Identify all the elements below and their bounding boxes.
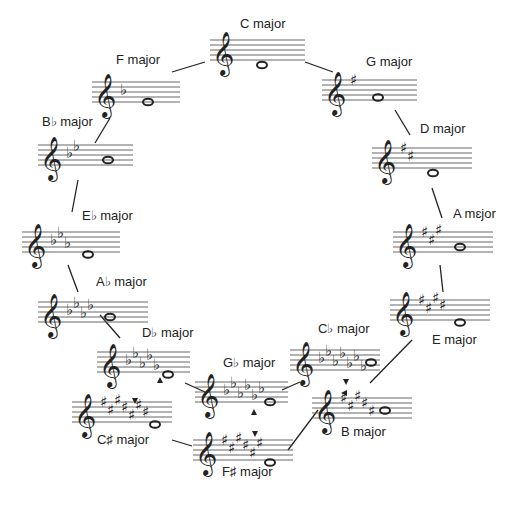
flat-icon: ♭ [64, 234, 71, 252]
connector-line [68, 265, 78, 292]
flat-icon: ♭ [87, 296, 94, 314]
connector-line [95, 118, 110, 143]
connector-line [432, 188, 442, 218]
treble-clef-icon: 𝄞 [195, 431, 217, 477]
connector-line [100, 315, 120, 338]
treble-clef-icon: 𝄞 [94, 73, 116, 119]
staff-a-flat-major: 𝄞♭♭♭♭ [38, 293, 148, 339]
treble-clef-icon: 𝄞 [99, 343, 121, 389]
key-label-g-flat-major: G♭ major [223, 355, 275, 370]
connector-line [395, 110, 410, 135]
flat-icon: ♭ [120, 81, 127, 99]
key-label-d-major: D major [420, 121, 466, 136]
key-label-e-flat-major: E♭ major [82, 208, 133, 223]
flat-icon: ♭ [258, 379, 265, 397]
key-label-c-sharp-major: C♯ major [97, 432, 149, 447]
whole-note-icon [373, 94, 383, 101]
circle-of-fifths-diagram: 𝄞𝄞♯𝄞♯♯𝄞♯♯♯𝄞♯♯♯♯𝄞♯♯♯♯♯𝄞♯♯♯♯♯♯𝄞♯♯♯♯♯♯♯𝄞♭♭♭… [0, 0, 527, 512]
whole-note-icon [380, 407, 390, 414]
staff-f-major: 𝄞♭ [92, 73, 180, 119]
treble-clef-icon: 𝄞 [74, 393, 96, 439]
key-staves: 𝄞𝄞♯𝄞♯♯𝄞♯♯♯𝄞♯♯♯♯𝄞♯♯♯♯♯𝄞♯♯♯♯♯♯𝄞♯♯♯♯♯♯♯𝄞♭♭♭… [22, 31, 493, 477]
key-label-d-flat-major: D♭ major [142, 325, 194, 340]
key-label-f-major: F major [116, 52, 160, 67]
key-label-c-major: C major [240, 16, 286, 31]
key-label-a-flat-major: A♭ major [96, 274, 147, 289]
flat-icon: ♭ [153, 356, 160, 374]
key-label-b-major: B major [341, 424, 386, 439]
treble-clef-icon: 𝄞 [212, 31, 234, 77]
connector-line [172, 440, 192, 446]
connector-line [440, 265, 443, 292]
sharp-icon: ♯ [142, 403, 149, 421]
arrow-marker-icon [157, 377, 163, 383]
treble-clef-icon: 𝄞 [197, 373, 219, 419]
whole-note-icon [83, 251, 93, 258]
staff-a-major: 𝄞♯♯♯ [393, 221, 493, 270]
connector-line [172, 62, 205, 72]
staff-e-flat-major: 𝄞♭♭♭ [22, 223, 120, 269]
sharp-icon: ♯ [435, 221, 442, 239]
treble-clef-icon: 𝄞 [40, 136, 62, 182]
staff-g-flat-major: 𝄞♭♭♭♭♭♭ [195, 373, 288, 419]
whole-note-icon [428, 170, 438, 177]
key-label-c-flat-major: C♭ major [318, 321, 370, 336]
whole-note-icon [366, 359, 376, 366]
key-label-f-sharp-major: F♯ major [222, 464, 273, 479]
key-label-g-major: G major [366, 54, 412, 69]
staff-b-flat-major: 𝄞♭♭ [38, 136, 133, 182]
treble-clef-icon: 𝄞 [314, 389, 336, 435]
treble-clef-icon: 𝄞 [40, 293, 62, 339]
staff-c-major: 𝄞 [210, 31, 305, 77]
treble-clef-icon: 𝄞 [324, 71, 346, 117]
arrow-marker-icon [343, 379, 349, 385]
whole-note-icon [163, 371, 173, 378]
treble-clef-icon: 𝄞 [395, 223, 417, 269]
flat-icon: ♭ [73, 137, 80, 155]
staff-e-major: 𝄞♯♯♯♯ [390, 289, 490, 338]
arrow-marker-icon [251, 409, 257, 415]
sharp-icon: ♯ [407, 147, 414, 165]
key-label-b-flat-major: B♭ major [42, 114, 93, 129]
sharp-icon: ♯ [350, 71, 357, 89]
flat-icon: ♭ [360, 357, 367, 375]
whole-note-icon [150, 421, 160, 428]
connector-line [72, 180, 78, 212]
whole-note-icon [455, 319, 465, 326]
staff-d-flat-major: 𝄞♭♭♭♭♭ [97, 343, 190, 389]
staff-d-major: 𝄞♯♯ [372, 139, 472, 185]
treble-clef-icon: 𝄞 [374, 139, 396, 185]
sharp-icon: ♯ [368, 402, 375, 420]
treble-clef-icon: 𝄞 [24, 223, 46, 269]
sharp-icon: ♯ [256, 434, 263, 452]
key-label-a-major: A mɛjor [453, 206, 496, 221]
staff-g-major: 𝄞♯ [322, 71, 417, 117]
treble-clef-icon: 𝄞 [392, 291, 414, 337]
key-label-e-major: E major [432, 332, 477, 347]
sharp-icon: ♯ [439, 296, 446, 314]
whole-note-icon [257, 62, 267, 69]
treble-clef-icon: 𝄞 [292, 341, 314, 387]
staff-c-flat-major: 𝄞♭♭♭♭♭♭♭ [290, 341, 380, 387]
